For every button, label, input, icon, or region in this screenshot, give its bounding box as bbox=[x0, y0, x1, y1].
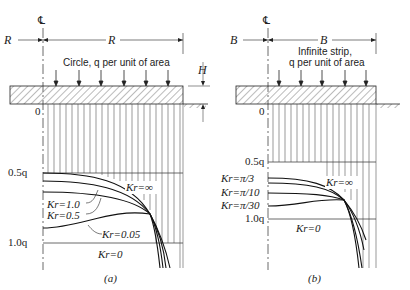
label-kr-pi10: Kr=π/10 bbox=[220, 186, 260, 198]
footing-hatch bbox=[10, 86, 183, 104]
panel-a: ℄ R R Circle, q per unit of area bbox=[2, 14, 210, 285]
contact-pressure-diagram: ℄ R R Circle, q per unit of area bbox=[0, 0, 410, 290]
load-arrows bbox=[54, 70, 170, 86]
footing-hatch bbox=[236, 86, 376, 104]
centerline-symbol: ℄ bbox=[262, 14, 270, 26]
load-label: Circle, q per unit of area bbox=[63, 57, 170, 68]
tick-05q: 0.5q bbox=[8, 166, 28, 178]
arrow-icon bbox=[43, 38, 48, 42]
label-kr-0-b: Kr=0 bbox=[295, 222, 321, 234]
load-label-line2: q per unit of area bbox=[289, 57, 365, 68]
tick-05q: 0.5q bbox=[245, 155, 265, 167]
label-kr-pi3: Kr=π/3 bbox=[220, 172, 255, 184]
label-kr-inf-a: Kr=∞ bbox=[125, 181, 153, 193]
tick-10q: 1.0q bbox=[245, 212, 265, 224]
arrow-icon bbox=[38, 38, 43, 42]
tick-10q: 1.0q bbox=[8, 236, 28, 248]
load-label-line1: Infinite strip, bbox=[298, 46, 352, 57]
caption-a: (a) bbox=[104, 272, 117, 285]
label-kr-inf-b: Kr=∞ bbox=[325, 176, 353, 188]
centerline-symbol: ℄ bbox=[37, 14, 45, 26]
panel-b: ℄ B B Infinite strip, q per unit of area… bbox=[220, 14, 400, 285]
dim-label-left: R bbox=[3, 33, 12, 47]
label-kr-05: Kr=0.5 bbox=[46, 209, 80, 221]
height-label: H bbox=[197, 63, 208, 77]
load-arrows bbox=[277, 70, 368, 86]
dim-label-right: B bbox=[320, 33, 328, 47]
dim-label-right: R bbox=[107, 33, 116, 47]
caption-b: (b) bbox=[308, 272, 321, 285]
dim-label-left: B bbox=[230, 33, 238, 47]
arrow-icon bbox=[178, 38, 183, 42]
label-kr-005: Kr=0.05 bbox=[101, 228, 141, 240]
origin-label: 0 bbox=[259, 105, 265, 117]
origin-label: 0 bbox=[35, 105, 41, 117]
label-kr-0-a: Kr=0 bbox=[97, 248, 123, 260]
label-kr-pi30: Kr=π/30 bbox=[220, 199, 260, 211]
